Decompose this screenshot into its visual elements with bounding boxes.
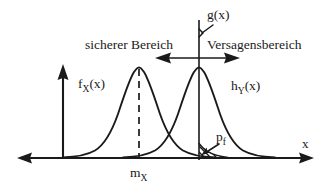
x-axis-label: x [302,136,309,151]
f-x-density-label: fX(x) [78,76,105,94]
f-x-density-label-arg: (x) [89,76,105,91]
reliability-diagram-svg: sicherer Bereich Versagensbereich g(x) f… [0,0,328,188]
h-y-density-label-arg: (x) [245,78,261,93]
limit-state-label: g(x) [207,7,230,22]
failure-region-label: Versagensbereich [207,37,302,52]
mean-label-main: m [130,165,141,180]
x-axis-left-arrowhead [17,153,32,164]
safe-region-label: sicherer Bereich [85,37,173,52]
y-axis-group [58,64,69,158]
region-arrow-right-head [224,53,240,64]
limit-state-leader-line [202,25,213,33]
region-split-arrow [155,53,240,64]
h-y-density-label: hY(x) [231,78,260,96]
diagram-canvas: sicherer Bereich Versagensbereich g(x) f… [0,0,328,188]
mean-label: mX [130,165,148,183]
mean-label-sub: X [141,173,148,183]
region-arrow-left-head [155,53,171,64]
x-axis-right-arrowhead [299,153,314,164]
y-axis-arrowhead [58,64,69,80]
failure-probability-label-sub: f [223,137,227,147]
